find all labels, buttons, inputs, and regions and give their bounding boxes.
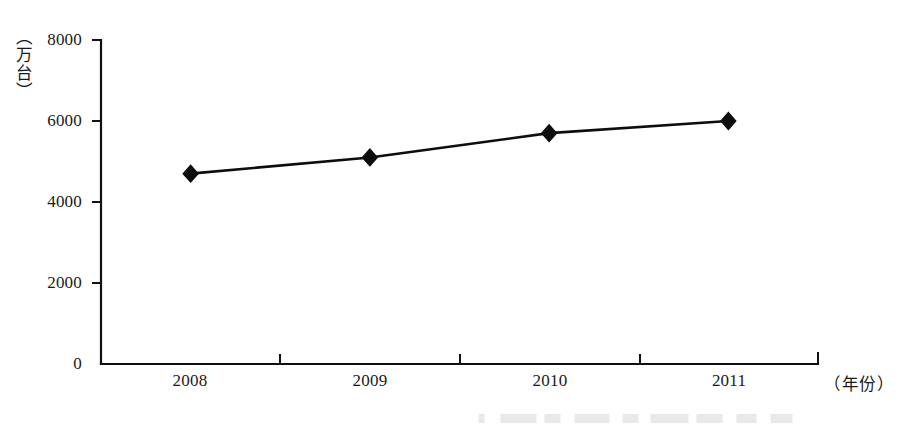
line-chart-plot <box>0 0 902 424</box>
y-axis-ticks <box>92 40 101 283</box>
series-line-path <box>191 121 729 174</box>
y-tick-label-4000: 4000 <box>20 193 82 210</box>
chart-figure: 8000 6000 4000 2000 0 2008 2009 2010 201… <box>0 0 902 424</box>
data-point-marker <box>542 125 557 142</box>
y-tick-label-6000: 6000 <box>20 112 82 129</box>
x-tick-label-2009: 2009 <box>330 372 410 389</box>
x-axis-ticks <box>280 352 818 364</box>
x-tick-label-2008: 2008 <box>150 372 230 389</box>
data-point-marker <box>721 113 736 130</box>
x-tick-label-2011: 2011 <box>689 372 769 389</box>
data-point-marker <box>362 149 377 166</box>
x-tick-label-2010: 2010 <box>510 372 590 389</box>
x-axis-title: （年份） <box>824 371 894 395</box>
y-tick-label-0: 0 <box>20 355 82 372</box>
y-tick-label-2000: 2000 <box>20 274 82 291</box>
series-markers <box>183 113 736 183</box>
scan-artifact <box>470 414 800 423</box>
data-point-marker <box>183 165 198 182</box>
y-axis-title: （万台） <box>10 28 34 100</box>
